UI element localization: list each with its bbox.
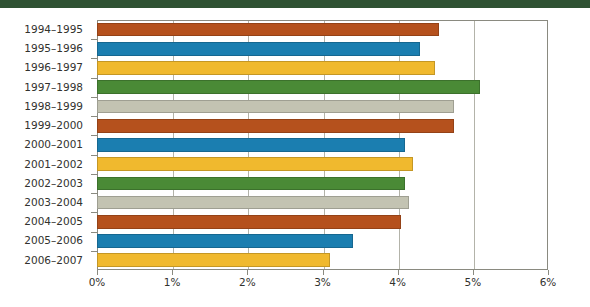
- bar-row: [97, 97, 548, 116]
- y-axis-label-2004-2005: 2004–2005: [0, 212, 91, 231]
- y-axis-label-1994-1995: 1994–1995: [0, 20, 91, 39]
- bar-2004-2005[interactable]: [97, 215, 401, 229]
- y-axis-label-1998-1999: 1998–1999: [0, 97, 91, 116]
- bar-2005-2006[interactable]: [97, 234, 353, 248]
- bar-row: [97, 116, 548, 135]
- x-axis-tick-labels: 0%1%2%3%4%5%6%: [97, 276, 548, 292]
- x-axis-label-6%: 6%: [540, 276, 557, 288]
- bars-layer: [97, 20, 548, 270]
- bar-2003-2004[interactable]: [97, 196, 409, 210]
- x-tick-mark-3%: [323, 270, 324, 275]
- x-axis-label-0%: 0%: [89, 276, 106, 288]
- y-axis-label-2003-2004: 2003–2004: [0, 193, 91, 212]
- bar-row: [97, 20, 548, 39]
- bar-row: [97, 135, 548, 154]
- bar-2006-2007[interactable]: [97, 253, 330, 267]
- bar-2000-2001[interactable]: [97, 138, 405, 152]
- y-axis-label-1995-1996: 1995–1996: [0, 39, 91, 58]
- bar-1996-1997[interactable]: [97, 61, 435, 75]
- bar-row: [97, 231, 548, 250]
- x-axis-label-1%: 1%: [164, 276, 181, 288]
- y-axis-label-1997-1998: 1997–1998: [0, 78, 91, 97]
- y-axis-label-2001-2002: 2001–2002: [0, 155, 91, 174]
- bar-1998-1999[interactable]: [97, 100, 454, 114]
- x-tick-mark-5%: [473, 270, 474, 275]
- x-axis-label-5%: 5%: [464, 276, 481, 288]
- bar-1997-1998[interactable]: [97, 80, 480, 94]
- y-axis-label-2005-2006: 2005–2006: [0, 231, 91, 250]
- bar-1994-1995[interactable]: [97, 23, 439, 37]
- bar-row: [97, 212, 548, 231]
- bar-row: [97, 78, 548, 97]
- bar-row: [97, 39, 548, 58]
- y-axis-category-labels: 1994–19951995–19961996–19971997–19981998…: [0, 20, 91, 270]
- y-axis-label-2002-2003: 2002–2003: [0, 174, 91, 193]
- bar-chart-figure: 1994–19951995–19961996–19971997–19981998…: [0, 8, 590, 307]
- bar-1999-2000[interactable]: [97, 119, 454, 133]
- bar-row: [97, 251, 548, 270]
- x-axis-label-3%: 3%: [314, 276, 331, 288]
- x-tick-mark-2%: [247, 270, 248, 275]
- top-green-band: [0, 0, 590, 8]
- bar-row: [97, 193, 548, 212]
- bar-1995-1996[interactable]: [97, 42, 420, 56]
- y-axis-label-2006-2007: 2006–2007: [0, 251, 91, 270]
- bar-row: [97, 155, 548, 174]
- x-axis-label-2%: 2%: [239, 276, 256, 288]
- x-tick-mark-0%: [97, 270, 98, 275]
- bar-2002-2003[interactable]: [97, 177, 405, 191]
- bar-2001-2002[interactable]: [97, 157, 413, 171]
- y-axis-label-2000-2001: 2000–2001: [0, 135, 91, 154]
- y-axis-label-1999-2000: 1999–2000: [0, 116, 91, 135]
- bar-row: [97, 174, 548, 193]
- x-tick-mark-1%: [172, 270, 173, 275]
- x-tick-mark-6%: [548, 270, 549, 275]
- x-tick-mark-4%: [398, 270, 399, 275]
- x-axis-tick-marks: [97, 270, 548, 275]
- x-axis-label-4%: 4%: [389, 276, 406, 288]
- bar-row: [97, 58, 548, 77]
- y-axis-label-1996-1997: 1996–1997: [0, 58, 91, 77]
